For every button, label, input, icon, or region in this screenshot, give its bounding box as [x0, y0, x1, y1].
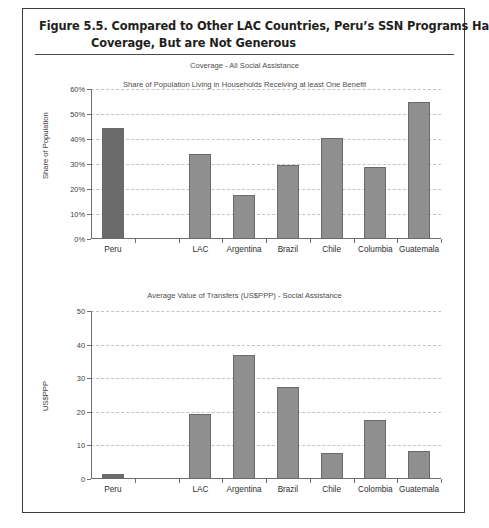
gridline: [91, 164, 441, 165]
gridline: [91, 412, 441, 413]
y-tick-label: 50%: [70, 110, 85, 119]
y-tick-label: 20: [77, 407, 85, 416]
gridline: [91, 139, 441, 140]
x-tick-label: Brazil: [278, 485, 298, 494]
chart-coverage-all-social-assistance: Coverage - All Social AssistanceShare of…: [23, 61, 466, 279]
y-tick-label: 10%: [70, 210, 85, 219]
x-tick-mark: [354, 479, 355, 483]
x-tick-label: Brazil: [278, 245, 298, 254]
bar: [233, 195, 255, 240]
bar: [277, 387, 299, 479]
bar: [408, 102, 430, 239]
bar: [321, 453, 343, 479]
x-tick-label: Peru: [104, 485, 121, 494]
x-tick-mark: [310, 239, 311, 243]
x-tick-label: Chile: [322, 485, 341, 494]
chart-title: Average Value of Transfers (US$PPP) - So…: [23, 291, 466, 301]
figure-caption: Figure 5.5. Compared to Other LAC Countr…: [23, 18, 466, 51]
y-tick-label: 40: [77, 340, 85, 349]
bar: [189, 414, 211, 479]
figure-caption-line-1: Figure 5.5. Compared to Other LAC Countr…: [23, 18, 466, 35]
gridline: [91, 214, 441, 215]
figure-caption-line-2: Coverage, But are Not Generous: [23, 35, 466, 52]
bar: [364, 167, 386, 239]
x-tick-label: LAC: [192, 245, 208, 254]
y-tick-label: 0%: [74, 235, 85, 244]
y-axis-title: Share of Population: [41, 112, 50, 179]
y-axis-line: [91, 89, 92, 239]
x-tick-mark: [135, 479, 136, 483]
x-tick-mark: [310, 479, 311, 483]
gridline: [91, 378, 441, 379]
bar: [189, 154, 211, 239]
y-axis-title: US$PPP: [41, 381, 50, 411]
x-tick-mark: [179, 239, 180, 243]
x-tick-mark: [222, 239, 223, 243]
x-tick-label: Colombia: [358, 485, 393, 494]
x-tick-mark: [135, 239, 136, 243]
bar: [364, 420, 386, 479]
plot-area: 0%10%20%30%40%50%60%PeruLACArgentinaBraz…: [91, 89, 441, 239]
bar: [408, 451, 430, 479]
y-tick-label: 0: [81, 475, 85, 484]
plot-area: 01020304050PeruLACArgentinaBrazilChileCo…: [91, 311, 441, 479]
x-tick-mark: [266, 479, 267, 483]
gridline: [91, 445, 441, 446]
x-tick-mark: [397, 239, 398, 243]
bar: [233, 355, 255, 479]
y-axis-line: [91, 311, 92, 479]
bar: [277, 165, 299, 239]
x-tick-label: Guatemala: [399, 485, 439, 494]
gridline: [91, 89, 441, 90]
x-tick-label: Argentina: [227, 485, 262, 494]
y-tick-label: 10: [77, 441, 85, 450]
gridline: [91, 311, 441, 312]
figure-frame: Figure 5.5. Compared to Other LAC Countr…: [22, 8, 465, 513]
bar: [321, 138, 343, 240]
bar: [102, 128, 124, 239]
x-tick-label: Guatemala: [399, 245, 439, 254]
gridline: [91, 345, 441, 346]
x-tick-mark: [179, 479, 180, 483]
x-tick-mark: [266, 239, 267, 243]
x-tick-mark: [397, 479, 398, 483]
gridline: [91, 114, 441, 115]
x-tick-label: Argentina: [227, 245, 262, 254]
x-tick-mark: [441, 479, 442, 483]
chart-title: Coverage - All Social Assistance: [23, 61, 466, 71]
chart-average-value-of-transfers: Average Value of Transfers (US$PPP) - So…: [23, 291, 466, 519]
x-tick-label: LAC: [192, 485, 208, 494]
y-tick-label: 20%: [70, 185, 85, 194]
bar: [102, 474, 124, 479]
x-tick-label: Chile: [322, 245, 341, 254]
y-tick-label: 50: [77, 307, 85, 316]
x-tick-mark: [222, 479, 223, 483]
x-tick-label: Peru: [104, 245, 121, 254]
y-tick-mark: [87, 239, 91, 240]
x-tick-mark: [441, 239, 442, 243]
y-tick-label: 30: [77, 374, 85, 383]
x-tick-mark: [354, 239, 355, 243]
y-tick-label: 60%: [70, 85, 85, 94]
caption-divider: [35, 54, 454, 55]
y-tick-mark: [87, 479, 91, 480]
y-tick-label: 40%: [70, 135, 85, 144]
gridline: [91, 189, 441, 190]
y-tick-label: 30%: [70, 160, 85, 169]
x-tick-label: Columbia: [358, 245, 393, 254]
